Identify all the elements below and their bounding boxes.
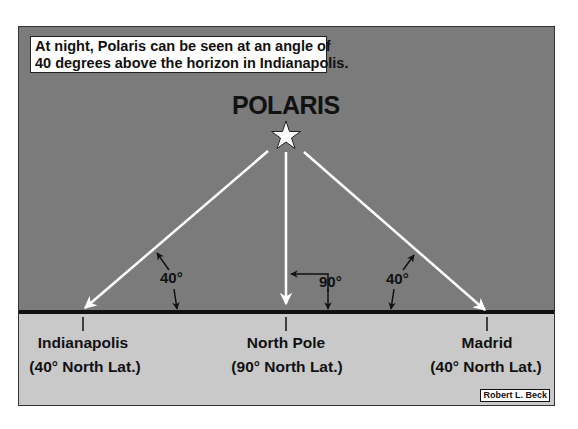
- angle-pointer-right-up: [403, 255, 414, 270]
- angle-pointer-right-down: [391, 289, 394, 309]
- angle-label-center: 90°: [319, 273, 342, 290]
- star-icon: [272, 121, 301, 149]
- location-name-north-pole: North Pole: [226, 334, 346, 352]
- author-credit: Robert L. Beck: [480, 389, 550, 402]
- angle-pointer-left-down: [174, 289, 177, 309]
- location-name-indianapolis: Indianapolis: [23, 334, 143, 352]
- angle-label-left: 40°: [160, 269, 183, 286]
- location-name-madrid: Madrid: [427, 334, 547, 352]
- diagram-frame: At night, Polaris can be seen at an angl…: [18, 26, 555, 406]
- location-lat-madrid: (40° North Lat.): [423, 358, 549, 376]
- angle-pointer-left-up: [157, 253, 169, 270]
- location-lat-indianapolis: (40° North Lat.): [23, 358, 147, 376]
- location-lat-north-pole: (90° North Lat.): [224, 358, 350, 376]
- angle-label-right: 40°: [386, 270, 409, 287]
